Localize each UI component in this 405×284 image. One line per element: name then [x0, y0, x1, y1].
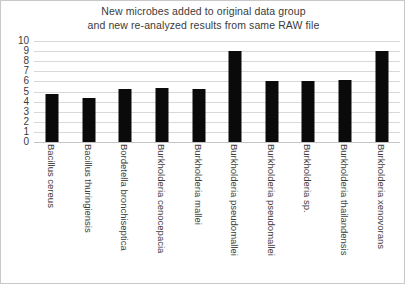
y-tick-label-6: 6: [23, 76, 29, 86]
y-tick-label-0: 0: [23, 137, 29, 147]
bar-slot: [254, 41, 291, 142]
bar-slot: [144, 41, 181, 142]
y-tick-label-7: 7: [23, 66, 29, 76]
y-tick-label-5: 5: [23, 87, 29, 97]
bar[interactable]: [46, 94, 59, 142]
x-label-slot: Burkholderia sp.: [290, 144, 327, 284]
bar[interactable]: [339, 80, 352, 142]
x-tick-label: Burkholderia pseudomallei: [266, 144, 276, 256]
x-tick-label: Bacillus cereus: [46, 144, 56, 208]
y-tick-label-10: 10: [18, 36, 29, 46]
x-label-slot: Bacillus thuringiensis: [71, 144, 108, 284]
bar[interactable]: [156, 88, 169, 142]
x-label-slot: Burkholderia thailandensis: [327, 144, 364, 284]
y-tick-label-9: 9: [23, 46, 29, 56]
bar[interactable]: [119, 89, 132, 142]
bar-slot: [180, 41, 217, 142]
bar-series: [34, 41, 400, 142]
bar-slot: [363, 41, 400, 142]
bar[interactable]: [265, 81, 278, 142]
chart-title-line-1: New microbes added to original data grou…: [1, 4, 405, 18]
chart-title: New microbes added to original data grou…: [1, 4, 405, 32]
bar-slot: [217, 41, 254, 142]
bar[interactable]: [375, 51, 388, 142]
y-tick-label-2: 2: [23, 117, 29, 127]
x-tick-label: Bacillus thuringiensis: [83, 144, 93, 233]
bar-slot: [327, 41, 364, 142]
x-label-slot: Burkholderia mallei: [180, 144, 217, 284]
x-tick-label: Bordetella bronchiseptica: [119, 144, 129, 251]
x-axis: Bacillus cereusBacillus thuringiensisBor…: [34, 144, 400, 284]
bar[interactable]: [192, 89, 205, 142]
chart-title-line-2: and new re-analyzed results from same RA…: [1, 18, 405, 32]
bar-slot: [107, 41, 144, 142]
y-axis: 012345678910: [1, 41, 32, 142]
x-tick-label: Burkholderia thailandensis: [339, 144, 349, 255]
bar[interactable]: [82, 98, 95, 142]
x-tick-label: Burkholderia sp.: [302, 144, 312, 213]
y-tick-label-3: 3: [23, 107, 29, 117]
x-label-slot: Burkholderia cenocepacia: [144, 144, 181, 284]
x-label-slot: Burkholderia xenovorans: [363, 144, 400, 284]
gridline-0: [34, 142, 400, 143]
x-label-slot: Bordetella bronchiseptica: [107, 144, 144, 284]
bar-slot: [71, 41, 108, 142]
bar-slot: [290, 41, 327, 142]
bar[interactable]: [229, 51, 242, 142]
x-tick-label: Burkholderia pseudomallei: [229, 144, 239, 256]
x-tick-label: Burkholderia mallei: [193, 144, 203, 225]
y-tick-label-4: 4: [23, 97, 29, 107]
x-tick-label: Burkholderia cenocepacia: [156, 144, 166, 253]
bar[interactable]: [302, 81, 315, 142]
x-tick-label: Burkholderia xenovorans: [376, 144, 386, 249]
y-tick-label-8: 8: [23, 56, 29, 66]
bar-slot: [34, 41, 71, 142]
y-tick-label-1: 1: [23, 127, 29, 137]
x-label-slot: Bacillus cereus: [34, 144, 71, 284]
x-label-slot: Burkholderia pseudomallei: [254, 144, 291, 284]
bar-chart: New microbes added to original data grou…: [0, 0, 405, 284]
x-label-slot: Burkholderia pseudomallei: [217, 144, 254, 284]
